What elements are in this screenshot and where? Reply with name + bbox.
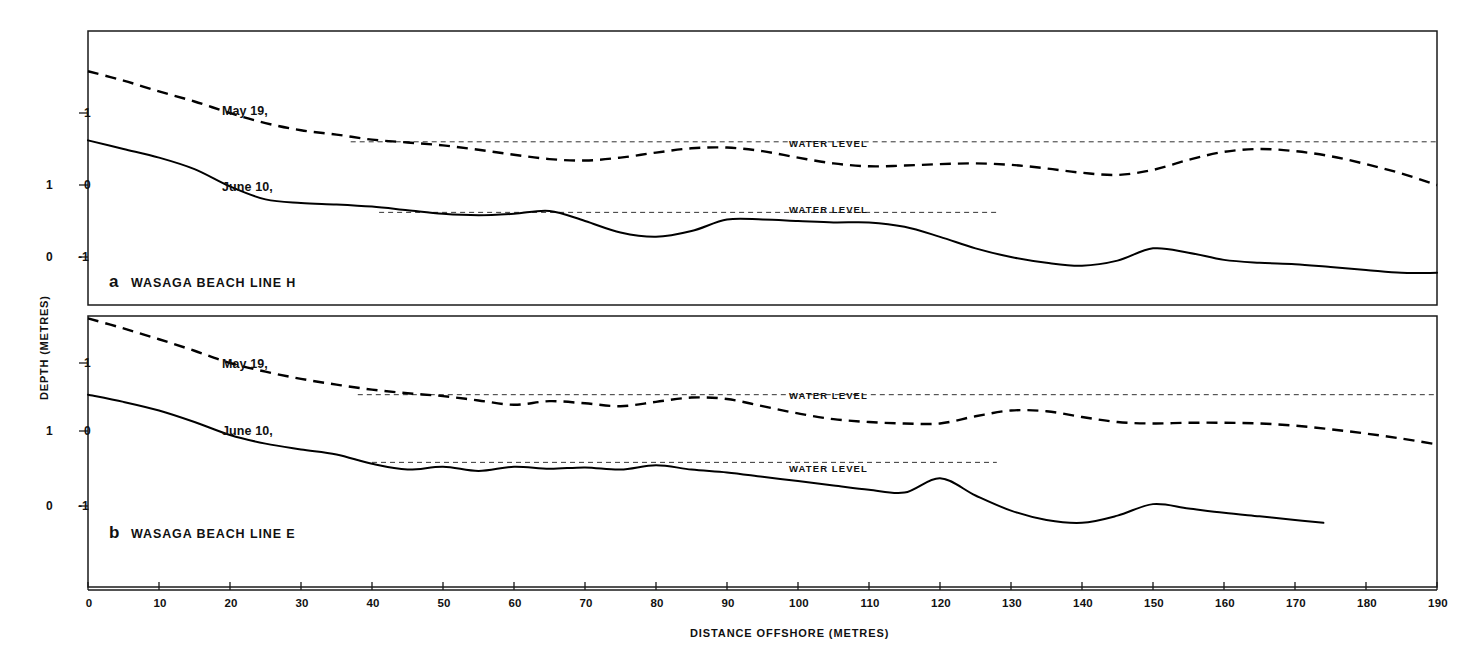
x-tick-label-90: 90 (718, 597, 738, 609)
panel-a-y-outer-tick-0: 0 (46, 250, 53, 264)
x-tick-label-20: 20 (221, 597, 241, 609)
x-tick-label-100: 100 (789, 597, 809, 609)
x-tick-label-110: 110 (860, 597, 880, 609)
panel-a-june-curve-label: June 10, (222, 180, 273, 194)
x-tick-label-80: 80 (647, 597, 667, 609)
x-tick-label-40: 40 (363, 597, 383, 609)
panel-a-water-level-june-label: WATER LEVEL (789, 204, 868, 215)
x-tick-label-180: 180 (1357, 597, 1377, 609)
panel-a-curve-june-10 (88, 140, 1437, 273)
panel-a-y-outer-tick-1: 1 (46, 178, 53, 192)
panel-a-letter: a (109, 272, 118, 292)
panel-a-frame (88, 31, 1437, 305)
x-tick-label-130: 130 (1002, 597, 1022, 609)
panel-b-y-outer-tick-1: 1 (46, 424, 53, 438)
panel-b-may-curve-label: May 19, (222, 357, 268, 371)
x-tick-label-160: 160 (1215, 597, 1235, 609)
panel-b-y-inner-tick-1: 1 (84, 356, 91, 370)
panel-a-caption: WASAGA BEACH LINE H (131, 276, 296, 290)
panel-b-y-inner-tick-0: 0 (84, 424, 91, 438)
x-tick-label-190: 190 (1428, 597, 1448, 609)
panel-b-water-level-may-label: WATER LEVEL (789, 390, 868, 401)
x-tick-label-60: 60 (505, 597, 525, 609)
x-tick-label-140: 140 (1073, 597, 1093, 609)
panel-a-curve-may-19 (88, 71, 1437, 185)
panel-a-y-inner-tick-1: 1 (84, 106, 91, 120)
panel-a-water-level-may-label: WATER LEVEL (789, 138, 868, 149)
panel-b-curve-june-10 (88, 395, 1323, 523)
x-tick-label-0: 0 (79, 597, 99, 609)
y-axis-title: DEPTH (METRES) (38, 295, 50, 400)
x-tick-label-10: 10 (150, 597, 170, 609)
panel-b-curve-may-19 (88, 318, 1437, 444)
x-tick-label-170: 170 (1286, 597, 1306, 609)
x-axis-title: DISTANCE OFFSHORE (METRES) (690, 627, 889, 639)
panel-a-may-curve-label: May 19, (222, 104, 268, 118)
panel-b-letter: b (109, 523, 119, 543)
x-tick-label-50: 50 (434, 597, 454, 609)
panel-b-y-outer-tick-0: 0 (46, 499, 53, 513)
profile-chart-svg (0, 0, 1471, 661)
panel-b-caption: WASAGA BEACH LINE E (131, 527, 296, 541)
x-tick-label-70: 70 (576, 597, 596, 609)
panel-a-y-inner-tick-0: 0 (84, 178, 91, 192)
x-tick-label-150: 150 (1144, 597, 1164, 609)
panel-a-y-inner-tick-neg1: -1 (78, 250, 89, 264)
panel-b-frame (88, 316, 1437, 587)
panel-b-y-inner-tick-neg1: -1 (78, 499, 89, 513)
panel-b-june-curve-label: June 10, (222, 424, 273, 438)
beach-profile-figure: 1 0 -1 1 0 May 19, June 10, WATER LEVEL … (0, 0, 1471, 661)
x-tick-label-120: 120 (931, 597, 951, 609)
x-tick-label-30: 30 (292, 597, 312, 609)
panel-b-water-level-june-label: WATER LEVEL (789, 463, 868, 474)
